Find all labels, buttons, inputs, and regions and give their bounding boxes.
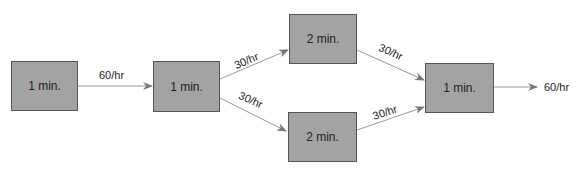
station-3-label: 2 min.	[307, 32, 340, 46]
station-5: 1 min.	[425, 63, 494, 113]
station-3: 2 min.	[289, 14, 357, 64]
station-1-label: 1 min.	[28, 79, 61, 93]
station-5-label: 1 min.	[443, 81, 476, 95]
station-4: 2 min.	[288, 112, 357, 162]
station-1: 1 min.	[11, 61, 78, 111]
flow-label-s1-s2: 60/hr	[99, 69, 124, 81]
station-4-label: 2 min.	[306, 130, 339, 144]
station-2-label: 1 min.	[170, 80, 203, 94]
flow-label-s5-out: 60/hr	[544, 81, 569, 93]
station-2: 1 min.	[153, 61, 220, 112]
